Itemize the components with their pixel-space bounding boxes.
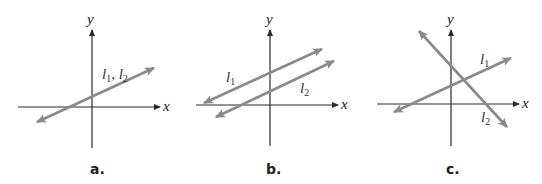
caption-c: c. [446,161,460,177]
line-label-l1: l1 [480,51,489,69]
x-axis-label: x [521,95,529,111]
line-label-l2: l2 [481,109,490,127]
y-axis-label: y [264,11,273,27]
y-axis-label: y [445,11,454,27]
x-axis-label: x [162,98,170,114]
line-label-l1-l2: l1, l2 [102,66,128,84]
panel-c: x y l1 l2 c. [377,11,529,177]
x-axis-label: x [340,96,348,112]
caption-b: b. [266,161,281,177]
panel-b: x y l1 l2 b. [196,11,348,177]
three-panel-line-diagram: x y l1, l2 a. x y l1 l2 b. x y l1 [0,0,542,184]
line-l1-l2-coincident [37,68,154,122]
y-axis-label: y [85,11,94,27]
caption-a: a. [90,161,105,177]
line-label-l2: l2 [300,80,309,98]
panel-a: x y l1, l2 a. [18,11,170,177]
line-label-l1: l1 [226,69,235,87]
line-l2 [419,31,507,127]
